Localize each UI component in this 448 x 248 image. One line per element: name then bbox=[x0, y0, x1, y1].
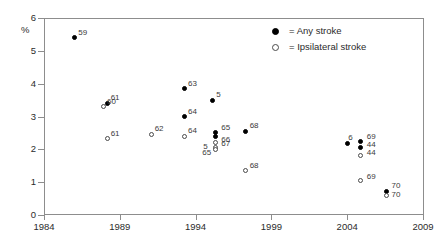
data-point-label: 62 bbox=[155, 125, 164, 133]
chart-legend: = Any stroke= Ipsilateral stroke bbox=[272, 24, 422, 56]
data-point bbox=[101, 104, 106, 109]
y-axis-unit-label: % bbox=[21, 25, 29, 35]
x-tick-label-1994: 1994 bbox=[176, 222, 216, 232]
data-point-label: 5 bbox=[216, 91, 220, 99]
data-point-label: 69 bbox=[367, 173, 376, 181]
y-tick-5 bbox=[38, 51, 44, 52]
data-point bbox=[72, 35, 77, 40]
scatter-chart-figure: 0123456 198419891994199920042009 % 59616… bbox=[0, 0, 448, 248]
data-point-label: 59 bbox=[78, 29, 87, 37]
data-point-label: 65 bbox=[221, 124, 230, 132]
data-point bbox=[243, 129, 248, 134]
x-tick-1994 bbox=[196, 215, 197, 220]
x-tick-label-2009: 2009 bbox=[403, 222, 443, 232]
x-tick-1999 bbox=[271, 215, 272, 220]
x-tick-label-1989: 1989 bbox=[100, 222, 140, 232]
legend-label: = Ipsilateral stroke bbox=[289, 41, 366, 53]
data-point-label: 61 bbox=[111, 130, 120, 138]
y-tick-label-5: 5 bbox=[20, 46, 36, 56]
data-point bbox=[384, 193, 389, 198]
legend-item: = Any stroke bbox=[272, 24, 422, 40]
data-point-label: 65 bbox=[202, 149, 211, 157]
y-tick-label-0: 0 bbox=[20, 210, 36, 220]
x-tick-label-1999: 1999 bbox=[251, 222, 291, 232]
x-tick-label-2004: 2004 bbox=[327, 222, 367, 232]
y-tick-label-3: 3 bbox=[20, 112, 36, 122]
y-tick-1 bbox=[38, 182, 44, 183]
legend-label: = Any stroke bbox=[289, 25, 342, 37]
data-point bbox=[213, 147, 218, 152]
y-tick-4 bbox=[38, 84, 44, 85]
x-tick-1984 bbox=[44, 215, 45, 220]
x-tick-label-1984: 1984 bbox=[24, 222, 64, 232]
data-point-label: 64 bbox=[188, 127, 197, 135]
open-circle-icon bbox=[272, 44, 279, 51]
y-tick-3 bbox=[38, 117, 44, 118]
x-tick-1989 bbox=[120, 215, 121, 220]
data-point-label: 68 bbox=[250, 122, 259, 130]
data-point-label: 60 bbox=[107, 98, 116, 106]
data-point bbox=[210, 98, 215, 103]
data-point-label: 64 bbox=[188, 108, 197, 116]
data-point-label: 70 bbox=[392, 191, 401, 199]
data-point bbox=[213, 140, 218, 145]
data-point bbox=[149, 132, 154, 137]
legend-item: = Ipsilateral stroke bbox=[272, 40, 422, 56]
plot-right-border bbox=[423, 18, 424, 215]
y-tick-label-4: 4 bbox=[20, 79, 36, 89]
filled-circle-icon bbox=[272, 28, 279, 35]
y-tick-6 bbox=[38, 18, 44, 19]
data-point-label: 67 bbox=[221, 140, 230, 148]
y-tick-label-2: 2 bbox=[20, 144, 36, 154]
y-tick-label-6: 6 bbox=[20, 13, 36, 23]
x-tick-2009 bbox=[423, 215, 424, 220]
data-point-label: 68 bbox=[250, 162, 259, 170]
data-point-label: 70 bbox=[392, 182, 401, 190]
data-point-label: 6 bbox=[348, 134, 352, 142]
y-tick-2 bbox=[38, 149, 44, 150]
y-tick-label-1: 1 bbox=[20, 177, 36, 187]
data-point-label: 44 bbox=[367, 149, 376, 157]
data-point-label: 63 bbox=[188, 80, 197, 88]
x-tick-2004 bbox=[347, 215, 348, 220]
